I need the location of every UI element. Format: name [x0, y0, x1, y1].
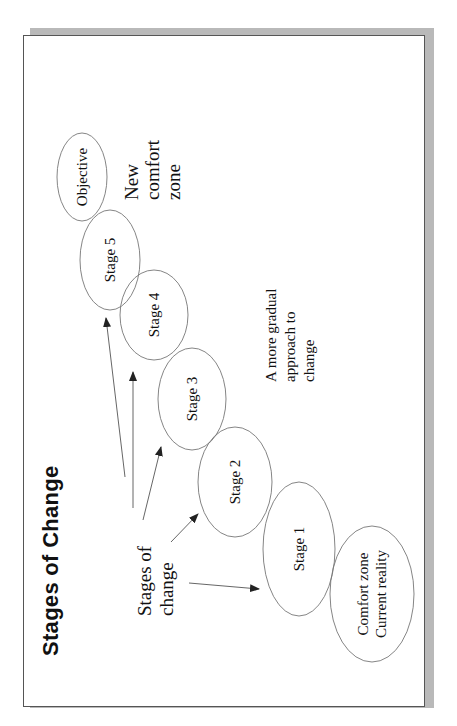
- node-stage-3: Stage 3: [183, 377, 201, 422]
- node-stage-4: Stage 4: [145, 293, 163, 338]
- slide-title: Stages of Change: [38, 465, 64, 656]
- arrow-to-stage-2: [171, 514, 198, 542]
- arrow-to-stage-3: [143, 447, 161, 520]
- node-comfort-zone-line-2: Current reality: [372, 550, 390, 638]
- label-gradual-approach: A more gradual approach to change: [262, 289, 319, 382]
- label-gradual-line-2: approach to: [281, 289, 300, 382]
- label-new-comfort-zone: New comfort zone: [121, 140, 184, 200]
- label-new-comfort-line-3: zone: [163, 140, 184, 200]
- node-comfort-zone-line-1: Comfort zone: [354, 550, 372, 638]
- label-stages-of-change-line-1: Stages of: [134, 546, 156, 616]
- node-stage-2: Stage 2: [226, 460, 244, 505]
- node-stage-5: Stage 5: [101, 238, 119, 283]
- label-new-comfort-line-1: New: [121, 140, 142, 200]
- label-gradual-line-1: A more gradual: [262, 289, 281, 382]
- label-gradual-line-3: change: [300, 289, 319, 382]
- label-stages-of-change-line-2: change: [156, 546, 178, 616]
- arrow-to-stage-1: [189, 583, 259, 589]
- node-stage-1: Stage 1: [290, 527, 308, 572]
- arrow-to-stage-5: [106, 318, 125, 477]
- node-comfort-zone: Comfort zone Current reality: [354, 550, 390, 638]
- label-new-comfort-line-2: comfort: [142, 140, 163, 200]
- label-stages-of-change: Stages of change: [134, 546, 178, 616]
- node-objective: Objective: [73, 148, 91, 206]
